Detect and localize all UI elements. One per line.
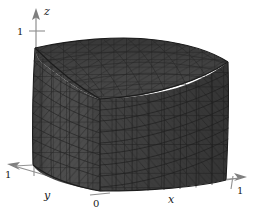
x-tick-1 (231, 176, 233, 189)
x-axis-arrow (234, 173, 247, 181)
z-axis-label: z (44, 6, 50, 17)
origin-tick (90, 193, 110, 195)
x-axis-label: x (168, 194, 174, 205)
z-axis-tick-label-1: 1 (17, 27, 23, 37)
origin-label: 0 (93, 199, 99, 209)
x-axis-tick-label-1: 1 (237, 186, 243, 196)
figure-canvas: z x y 1 1 1 0 (0, 0, 256, 224)
y-axis-label: y (44, 190, 50, 201)
y-axis-tick-label-1: 1 (5, 170, 11, 180)
cube-mesh (32, 38, 228, 191)
mesh-plot-svg (0, 0, 256, 224)
